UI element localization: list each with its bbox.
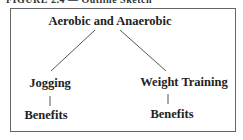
root-node: Aerobic and Anaerobic xyxy=(48,14,171,29)
leaf-node-weight-training-benefits: Benefits xyxy=(150,107,193,122)
branch-node-weight-training: Weight Training xyxy=(140,75,227,90)
branch-node-jogging: Jogging xyxy=(29,76,71,91)
leaf-node-jogging-benefits: Benefits xyxy=(24,108,67,123)
